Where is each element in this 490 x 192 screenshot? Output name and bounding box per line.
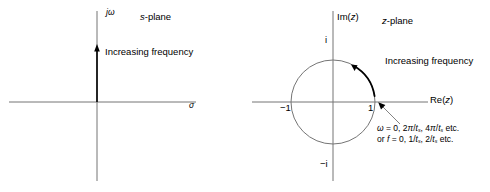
z-plane-tick-label-one: 1 — [368, 103, 373, 114]
s-plane-horizontal-axis-label: σ — [189, 101, 194, 111]
increasing-frequency-arc — [354, 66, 375, 96]
z-plane-tick-label-neg-i: −i — [320, 159, 328, 170]
s-plane-title: s-plane — [140, 12, 171, 23]
z-plane-increasing-frequency-label: Increasing frequency — [385, 56, 473, 67]
z-plane-callout-line-omega: ω = 0, 2π/ts, 4π/ts etc. — [377, 124, 459, 134]
callout-leader-line — [382, 106, 401, 125]
z-plane-title: z-plane — [382, 16, 413, 27]
z-plane-tick-label-neg-one: −1 — [280, 103, 291, 114]
z-plane-tick-label-i: i — [325, 35, 327, 46]
s-plane-group — [9, 11, 196, 181]
s-plane-vertical-axis-label: jω — [106, 8, 115, 18]
s-plane-ray-arrowhead — [94, 44, 100, 52]
z-plane-group — [252, 11, 428, 181]
z-plane-callout-line-frequency: or f = 0, 1/ts, 2/ts etc. — [377, 135, 453, 145]
z-plane-horizontal-axis-label: Re(z) — [430, 95, 453, 106]
diagram-canvas — [0, 0, 490, 192]
z-plane-vertical-axis-label: Im(z) — [337, 12, 359, 23]
s-plane-increasing-frequency-label: Increasing frequency — [105, 47, 193, 58]
figure-root: jω s-plane σ Increasing frequency Im(z) … — [0, 0, 490, 192]
